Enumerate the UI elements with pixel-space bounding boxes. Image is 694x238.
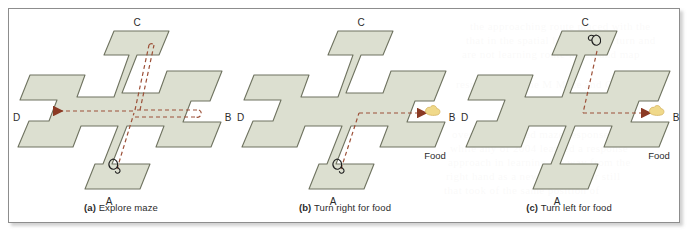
arm-label-b: B: [449, 112, 456, 123]
arm-label-b: B: [225, 112, 232, 123]
maze-shape-a: [18, 31, 222, 189]
panel-row: C B A D (a) Explore maze: [9, 9, 679, 222]
caption-b-text: Turn right for food: [314, 202, 391, 213]
caption-a-label: (a): [84, 202, 96, 213]
caption-b: (b) Turn right for food: [233, 202, 457, 213]
maze-diagram-c: C B A D Food: [457, 9, 681, 224]
arm-label-c: C: [581, 17, 588, 28]
figure-frame: C B A D (a) Explore maze: [8, 8, 680, 223]
arm-label-c: C: [357, 17, 364, 28]
panel-c: C B A D Food (c) Turn left for food: [457, 9, 681, 222]
caption-a-text: Explore maze: [99, 202, 158, 213]
caption-c-text: Turn left for food: [541, 202, 612, 213]
caption-b-label: (b): [299, 202, 311, 213]
arm-label-d: D: [13, 112, 20, 123]
maze-diagram-b: C B A D Food: [233, 9, 457, 224]
food-label: Food: [648, 150, 670, 161]
food-icon: [650, 106, 664, 116]
panel-a: C B A D (a) Explore maze: [9, 9, 233, 222]
maze-shape-c: [466, 31, 670, 189]
arm-label-c: C: [133, 17, 140, 28]
arm-label-d: D: [237, 112, 244, 123]
food-label: Food: [424, 150, 446, 161]
caption-a: (a) Explore maze: [9, 202, 233, 213]
maze-diagram-a: C B A D: [9, 9, 233, 224]
caption-c-label: (c): [526, 202, 538, 213]
food-icon: [426, 106, 440, 116]
arm-label-d: D: [461, 112, 468, 123]
maze-shape-b: [242, 31, 446, 189]
panel-b: C B A D Food (b) Turn right for food: [233, 9, 457, 222]
arm-label-b: B: [673, 112, 680, 123]
caption-c: (c) Turn left for food: [457, 202, 681, 213]
